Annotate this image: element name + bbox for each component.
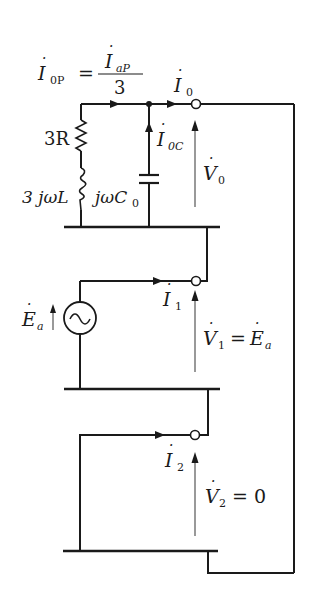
bus-2-return [208, 551, 294, 573]
label-i2: I · 2 [164, 437, 184, 474]
label-i0c: I · 0C [156, 116, 184, 153]
terminal-2 [191, 431, 200, 440]
label-3r: 3R [44, 128, 69, 149]
label-ea: E · a [21, 296, 44, 333]
svg-text:·: · [255, 315, 259, 331]
svg-text:jωC: jωC [91, 187, 127, 207]
label-jwc0: jωC 0 [91, 187, 139, 210]
terminal-1 [192, 277, 201, 286]
svg-text:1: 1 [175, 300, 182, 313]
svg-text:=: = [230, 327, 246, 349]
label-v0: V · 0 [203, 150, 225, 187]
resistor-3r [76, 120, 86, 151]
label-i0: I · 0 [173, 62, 193, 99]
svg-text:a: a [37, 320, 44, 333]
svg-text:·: · [161, 116, 165, 132]
svg-text:·: · [27, 296, 31, 312]
terminal-0 [192, 100, 201, 109]
voltage-arrow-ea [50, 304, 56, 330]
svg-text:0P: 0P [50, 74, 65, 87]
svg-text:0: 0 [218, 174, 225, 187]
svg-text:·: · [42, 50, 46, 66]
svg-text:0: 0 [186, 86, 193, 99]
svg-text:·: · [178, 62, 182, 78]
svg-text:·: · [211, 473, 215, 489]
current-arrow-i1 [153, 277, 163, 285]
sine-wave-icon [70, 314, 90, 324]
current-arrow-i0p [110, 100, 120, 108]
svg-text:0: 0 [132, 197, 139, 210]
voltage-arrow-v0 [192, 120, 199, 207]
inductor-3jwl [80, 168, 86, 210]
zero-sequence-circuit-diagram: I · 0P = I · aP 3 I · 0 3R I · 0C V · 0 … [0, 0, 311, 604]
svg-text:2: 2 [219, 497, 226, 510]
label-3jwl: 3 jωL [22, 187, 69, 207]
negative-left-wire [80, 435, 191, 551]
svg-text:1: 1 [218, 339, 225, 352]
svg-text:=: = [78, 62, 94, 84]
bus-1-drop [200, 389, 209, 435]
label-v2-equals-0: V · 2 = 0 [205, 473, 266, 510]
svg-text:= 0: = 0 [232, 485, 266, 507]
svg-text:2: 2 [177, 461, 184, 474]
svg-text:aP: aP [116, 62, 131, 75]
svg-text:·: · [209, 315, 213, 331]
svg-text:·: · [169, 437, 173, 453]
current-arrow-i2 [155, 431, 165, 439]
equation-i0p: I · 0P = I · aP 3 [37, 38, 143, 98]
svg-text:·: · [109, 38, 113, 54]
current-arrow-i0c [145, 122, 153, 132]
svg-text:3: 3 [114, 77, 125, 98]
svg-text:·: · [209, 150, 213, 166]
svg-text:a: a [265, 339, 272, 352]
voltage-arrow-v2 [192, 452, 199, 536]
svg-text:0C: 0C [168, 140, 184, 153]
label-v1-equals-ea: V · 1 = E · a [203, 315, 272, 352]
current-arrow-i0 [167, 100, 177, 108]
bus-0-drop [201, 227, 208, 281]
voltage-arrow-v1 [192, 290, 199, 372]
svg-text:·: · [167, 276, 171, 292]
